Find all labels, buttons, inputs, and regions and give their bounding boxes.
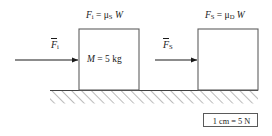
weight-symbol-dynamic: W <box>237 10 245 20</box>
hatched-ground <box>50 91 258 104</box>
vector-subscript-fs: S <box>169 43 173 50</box>
block-static-top-label: Fi = μS W <box>86 11 123 21</box>
arrow-applied-static-label: Fi <box>51 38 59 51</box>
mass-symbol: M <box>87 54 95 64</box>
arrow-applied-dynamic-label: FS <box>163 38 173 51</box>
block-static-mass-label: M = 5 kg <box>87 55 122 65</box>
scale-legend-text: 1 cm = 5 N <box>204 114 259 128</box>
weight-symbol-static: W <box>115 10 123 20</box>
friction-force-diagram: Fi = μS W FS = μD W M = 5 kg Fi FS 1 cm … <box>0 0 272 136</box>
mass-value: = 5 kg <box>97 54 121 64</box>
block-dynamic <box>198 29 258 90</box>
scale-legend-box: 1 cm = 5 N <box>203 113 258 127</box>
block-dynamic-top-label: FS = μD W <box>205 11 245 21</box>
vector-subscript-fi: i <box>57 43 59 50</box>
